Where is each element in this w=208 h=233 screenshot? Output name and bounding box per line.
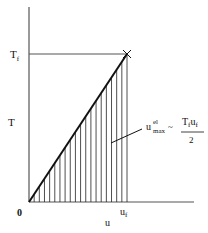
energy-formula: u el max ~ Tfuf 2 — [146, 116, 204, 145]
x-axis-label: u — [105, 217, 110, 228]
svg-text:max: max — [153, 127, 166, 135]
svg-text:Tfuf: Tfuf — [182, 116, 198, 129]
svg-text:~: ~ — [168, 122, 173, 132]
formula-leader-line — [111, 129, 142, 143]
load-line — [29, 54, 127, 202]
svg-text:u: u — [146, 121, 151, 132]
svg-text:el: el — [153, 118, 158, 126]
y-axis-label: T — [8, 116, 15, 128]
svg-text:2: 2 — [189, 135, 194, 145]
x-tick-label: uf — [120, 206, 128, 219]
diagram-canvas: Tf T 0 uf u u el max ~ Tfuf 2 — [0, 0, 208, 233]
y-tick-label: Tf — [10, 48, 20, 63]
origin-label: 0 — [17, 207, 22, 218]
